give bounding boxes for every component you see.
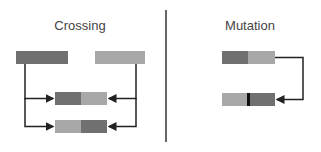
connector-lines [0, 0, 321, 152]
